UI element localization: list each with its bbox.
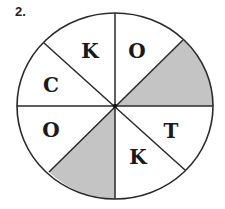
sector-circle-diagram: K O T K O C <box>0 0 225 209</box>
sector-letter: K <box>81 39 99 63</box>
sector-letter: C <box>43 73 59 97</box>
sector-letter: O <box>42 118 59 142</box>
sector-letter: T <box>164 119 179 143</box>
center-point <box>113 104 117 108</box>
sector-letter: K <box>129 145 147 169</box>
sector-letter: O <box>128 39 145 63</box>
